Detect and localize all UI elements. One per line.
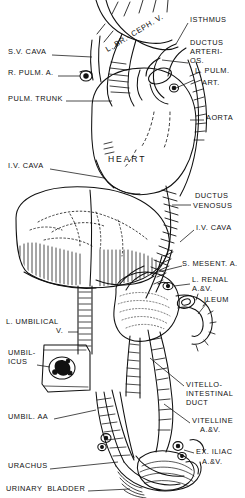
label-vitello-3: DUCT [186,399,208,408]
leader-ex-iliac [184,450,194,453]
label-l-umbilical-v-2: V. [56,327,63,336]
label-heart: HEART [108,155,146,164]
label-urachus: URACHUS [8,462,48,471]
label-r-pulm-a: R. PULM. A. [8,69,54,78]
leader-ileum [198,304,206,314]
label-iv-cava-upper: I.V. CAVA [8,162,44,171]
label-l-pulm-art-2: ART. [202,79,220,88]
leader-ductus-arteriosus [162,60,188,63]
label-l-pulm-art-1: L. PULM. [195,67,229,76]
label-isthmus: ISTHMUS [190,16,226,25]
label-vitelline-2: A.&V. [200,426,220,435]
label-pulm-trunk: PULM. TRUNK [8,95,63,104]
label-urinary-bladder: URINARY BLADDER [6,485,85,494]
label-ex-iliac-2: A.&V. [202,458,222,467]
label-umbil-aa: UMBIL. AA [8,413,48,422]
leader-iv-cava-lower [180,230,194,242]
leader-sv-cava [52,55,92,57]
leader-iv-cava-upper [50,169,104,178]
label-s-mesent-a: S. MESENT. A. [182,260,238,269]
label-l-renal-2: A.&V. [192,285,212,294]
label-l-umbilical-v: L. UMBILICAL [6,318,59,327]
label-ex-iliac-1: EX. ILIAC [196,448,233,457]
label-sv-cava: S.V. CAVA [8,48,46,57]
label-iv-cava-lower: I.V. CAVA [196,224,232,233]
label-ductus-venosus-1: DUCTUS [195,192,229,201]
leader-isthmus [176,23,188,44]
fetal-circulation-figure: S.V. CAVA R. PULM. A. PULM. TRUNK I.V. C… [0,0,245,498]
label-umbilicus-line2: ICUS [8,358,27,367]
leader-umbil-aa [54,410,96,419]
label-ductus-arteriosus-3: OS. [190,57,204,66]
label-ileum: ILEUM [204,296,229,305]
leader-l-renal [174,284,190,286]
leader-urachus [50,462,118,469]
label-aorta: AORTA [206,114,233,123]
label-ductus-venosus-2: VENOSUS [193,202,232,211]
leader-umbilicus [37,365,50,367]
